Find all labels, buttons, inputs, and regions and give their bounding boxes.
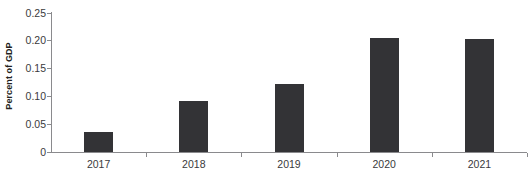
y-axis-tick-mark: [47, 40, 51, 41]
x-axis-tick-label: 2017: [87, 158, 110, 170]
y-axis-tick-mark: [47, 68, 51, 69]
plot-area: [51, 0, 527, 152]
x-axis-tick-mark: [527, 153, 528, 157]
bar: [179, 101, 208, 152]
bar: [465, 39, 494, 152]
y-axis-tick-label: 0.25: [14, 7, 46, 19]
y-axis-tick-labels: 00.050.100.150.200.25: [14, 0, 46, 175]
bar: [370, 38, 399, 152]
bar: [275, 84, 304, 152]
x-axis-tick-label: 2021: [468, 158, 491, 170]
y-axis-tick-mark: [47, 96, 51, 97]
y-axis-tick-label: 0: [14, 146, 46, 158]
y-axis-tick-mark: [47, 152, 51, 153]
y-axis-tick-mark: [47, 13, 51, 14]
y-axis-tick-label: 0.05: [14, 118, 46, 130]
x-axis-tick-label: 2018: [182, 158, 205, 170]
y-axis-tick-label: 0.15: [14, 62, 46, 74]
y-axis-tick-label: 0.20: [14, 34, 46, 46]
x-axis-line: [51, 152, 527, 153]
x-axis-tick-mark: [432, 153, 433, 157]
bar: [84, 132, 113, 152]
y-axis-title-text: Percent of GDP: [4, 42, 14, 109]
y-axis-tick-mark: [47, 124, 51, 125]
y-axis-tick-label: 0.10: [14, 90, 46, 102]
x-axis-tick-label: 2019: [277, 158, 300, 170]
x-axis-tick-mark: [241, 153, 242, 157]
x-axis-tick-mark: [146, 153, 147, 157]
x-axis-tick-mark: [337, 153, 338, 157]
bar-chart: Percent of GDP 00.050.100.150.200.25 201…: [0, 0, 531, 175]
x-axis-tick-label: 2020: [373, 158, 396, 170]
